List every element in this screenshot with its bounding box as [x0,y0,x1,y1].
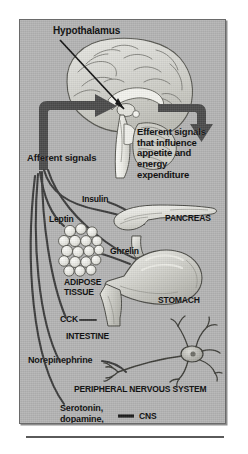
label-norepinephrine: Norepinephrine [28,356,92,366]
label-serotonin-dopamine: Serotonin, dopamine, many others [60,403,112,424]
neuron-illustration [104,316,222,387]
label-insulin: Insulin [82,195,108,204]
diagram-panel: Hypothalamus Efferent signals that influ… [19,19,226,424]
label-cck: CCK [60,315,78,324]
label-intestine: INTESTINE [66,332,109,341]
label-pancreas: PANCREAS [165,214,211,223]
label-peripheral-nervous-system: PERIPHERAL NERVOUS SYSTEM [74,385,206,394]
label-stomach: STOMACH [158,296,200,305]
intestine-illustration [100,284,122,326]
label-leptin: Leptin [49,215,74,224]
label-hypothalamus: Hypothalamus [53,26,120,37]
label-cns: CNS [139,412,157,421]
bottom-divider-rule [26,436,224,438]
label-ghrelin: Ghrelin [110,247,139,256]
label-efferent-signals: Efferent signals that influence appetite… [137,127,206,180]
adipose-tissue-illustration [59,224,104,277]
figure-root: Hypothalamus Efferent signals that influ… [0,0,248,454]
label-adipose-tissue: ADIPOSE TISSUE [64,278,101,298]
label-afferent-signals: Afferent signals [27,153,96,163]
